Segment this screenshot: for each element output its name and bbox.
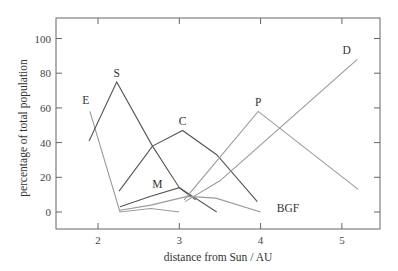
x-tick-label: 3 [177, 234, 183, 246]
x-tick-label: 5 [339, 234, 345, 246]
y-tick-label: 100 [35, 33, 52, 45]
series-label-c: C [179, 115, 187, 127]
series-label-d: D [343, 44, 351, 56]
x-axis-label: distance from Sun / AU [164, 251, 273, 263]
y-axis-label: percentage of total population [17, 59, 30, 197]
x-tick-label: 4 [258, 234, 264, 246]
series-labels: ESCMBGFPD [82, 44, 351, 214]
y-tick-label: 60 [40, 102, 52, 114]
chart: 2345020406080100 ESCMBGFPD distance from… [0, 0, 398, 271]
y-tick-label: 40 [40, 137, 52, 149]
x-tick-label: 2 [95, 234, 101, 246]
series-line-s [89, 82, 217, 212]
series-label-s: S [113, 67, 119, 79]
y-tick-label: 80 [40, 67, 52, 79]
series-label-bgf: BGF [277, 202, 299, 214]
plot-frame [56, 18, 380, 229]
series-line-e [90, 111, 179, 212]
series-label-p: P [255, 96, 261, 108]
series-line-d [185, 59, 357, 201]
series-lines [89, 59, 358, 212]
series-label-e: E [82, 94, 89, 106]
series-label-m: M [152, 178, 162, 190]
y-tick-label: 0 [46, 206, 52, 218]
axis-ticks [56, 18, 380, 229]
y-tick-label: 20 [40, 171, 52, 183]
